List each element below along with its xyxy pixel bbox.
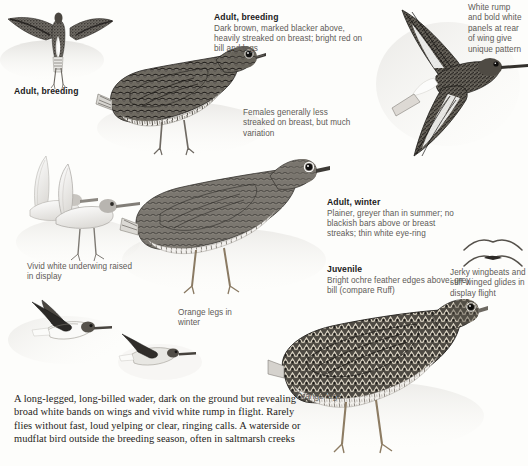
note-orange-legs-in-winter: Orange legs in winter <box>178 308 240 329</box>
field-guide-plate: Adult, breeding Dark brown, marked black… <box>0 0 528 466</box>
note-vivid-white-underwing: Vivid white underwing raised in display <box>27 262 139 283</box>
note-white-rump: White rump and bold white panels at rear… <box>468 3 526 55</box>
caption-body: Plainer, greyer than in summer; no black… <box>327 209 459 240</box>
figure-flight-profile-a <box>8 300 128 372</box>
label-adult-breeding-left: Adult, breeding <box>14 86 79 97</box>
note-display-flight: Jerky wingbeats and stiff-winged glides … <box>450 268 526 299</box>
caption-adult-breeding: Adult, breeding Dark brown, marked black… <box>214 12 364 55</box>
caption-heading: Adult, winter <box>327 197 459 208</box>
note-females-less-streaked: Females generally less streaked on breas… <box>243 108 361 139</box>
caption-body: Dark brown, marked blacker above, heavil… <box>214 24 364 55</box>
species-summary-text: A long-legged, long-billed wader, dark o… <box>14 392 310 445</box>
figure-flight-profile-b <box>118 330 203 388</box>
caption-adult-winter: Adult, winter Plainer, greyer than in su… <box>327 197 459 240</box>
caption-heading: Adult, breeding <box>214 12 364 23</box>
figure-adult-winter-standing <box>120 140 330 305</box>
wing-silhouette-glide <box>464 240 522 250</box>
